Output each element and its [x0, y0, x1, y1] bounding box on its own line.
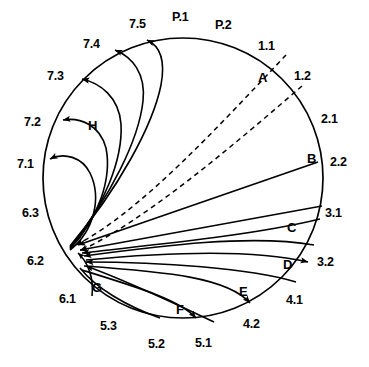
label-p-2: P.2 [215, 19, 232, 32]
label-4-2: 4.2 [243, 318, 260, 331]
label-tract-f: F [176, 303, 184, 316]
label-7-1: 7.1 [17, 158, 34, 171]
label-tract-h: H [88, 119, 97, 132]
tract-C [80, 206, 322, 253]
diagram-root: 7.5 P.1 P.2 1.1 1.2 2.1 2.2 3.1 3.2 4.1 … [0, 0, 369, 367]
label-6-2: 6.2 [27, 255, 44, 268]
label-tract-b: B [307, 152, 316, 165]
tract-H-to-7-3-path [70, 79, 121, 248]
tract-B [78, 162, 318, 245]
tract-A-dashed [76, 55, 302, 251]
label-tract-a: A [258, 71, 267, 84]
tract-A-lower-path [80, 86, 302, 251]
label-2-1: 2.1 [321, 113, 338, 126]
tract-A-upper-path [76, 55, 286, 245]
label-5-1: 5.1 [195, 337, 212, 350]
label-2-2: 2.2 [330, 156, 347, 169]
label-3-2: 3.2 [317, 256, 334, 269]
label-tract-c: C [287, 221, 296, 234]
label-1-1: 1.1 [258, 40, 275, 53]
label-6-3: 6.3 [22, 207, 39, 220]
label-4-1: 4.1 [286, 294, 303, 307]
label-7-4: 7.4 [83, 38, 100, 51]
label-tract-d: D [283, 258, 292, 271]
label-6-1: 6.1 [59, 293, 76, 306]
tract-C-curved-path [82, 219, 320, 253]
projection-diagram-svg [0, 0, 369, 367]
label-1-2: 1.2 [294, 70, 311, 83]
label-7-3: 7.3 [47, 70, 64, 83]
tract-D-loop-path [86, 253, 308, 262]
label-5-2: 5.2 [148, 338, 165, 351]
label-p-1: P.1 [172, 11, 189, 24]
tract-H [50, 40, 163, 250]
label-tract-e: E [239, 285, 247, 298]
label-7-5: 7.5 [129, 18, 146, 31]
tract-H-to-7-5-path [70, 40, 163, 246]
tract-B-path [78, 162, 318, 245]
label-7-2: 7.2 [24, 116, 41, 129]
tract-D [84, 241, 314, 262]
tract-H-to-7-1-path [50, 156, 96, 250]
label-5-3: 5.3 [100, 320, 117, 333]
label-tract-g: G [92, 281, 102, 294]
label-3-1: 3.1 [325, 207, 342, 220]
